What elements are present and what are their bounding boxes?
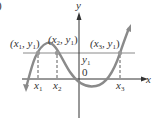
point-x1-y1 (36, 51, 40, 55)
label-point-3: (x3, y1) (90, 37, 120, 51)
tick-x3: x3 (115, 79, 125, 93)
label-y1: y1 (81, 53, 91, 67)
curve-arrow-left-icon (23, 84, 29, 92)
origin-label: 0 (82, 66, 88, 78)
point-x3-y1 (118, 51, 122, 55)
point-x2-y1 (55, 51, 59, 55)
label-point-1: (x1, y1) (10, 37, 40, 51)
label-point-2: (x2, y1) (48, 33, 78, 47)
y-axis-label: y (75, 0, 81, 11)
x-axis-label: x (145, 73, 151, 85)
corner-fragment: ) (0, 0, 2, 12)
cubic-graph-diagram: ) x y (x1, y1) (x2, y1) (x3, y1) y1 0 x1… (0, 0, 155, 123)
y-axis-arrow-icon (77, 12, 82, 20)
tick-x1: x1 (33, 79, 43, 93)
tick-x2: x2 (52, 79, 62, 93)
